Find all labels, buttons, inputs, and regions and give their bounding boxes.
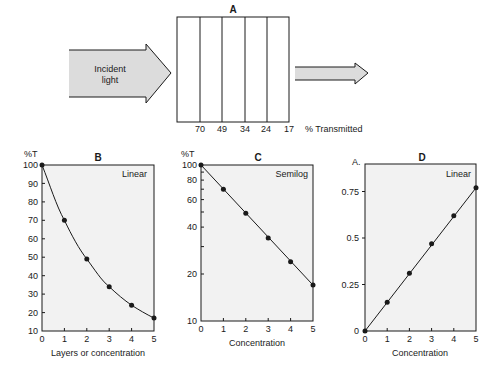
layer-value: 17 — [284, 124, 294, 134]
panel-a-title: A — [229, 4, 236, 15]
y-tick-label: 10 — [28, 326, 38, 336]
y-tick-label: 30 — [28, 289, 38, 299]
x-tick-label: 0 — [198, 324, 203, 334]
x-axis-label-c: Concentration — [229, 338, 285, 348]
scale-annotation-d: Linear — [446, 169, 471, 179]
y-tick-label: 0.25 — [341, 280, 359, 290]
y-tick-label: 50 — [28, 252, 38, 262]
layer-value: 49 — [217, 124, 227, 134]
x-tick-label: 0 — [39, 334, 44, 344]
layer-value: 34 — [240, 124, 250, 134]
y-tick-label: 60 — [28, 234, 38, 244]
y-tick-label: 90 — [28, 179, 38, 189]
y-axis-label-c: %T — [181, 149, 195, 159]
y-tick-label: 40 — [28, 271, 38, 281]
y-axis-label-d: A. — [352, 157, 361, 167]
y-tick-label: 100 — [182, 160, 197, 170]
x-tick-label: 3 — [107, 334, 112, 344]
panel-a-diagram: A Incident light 70 49 34 24 17 % Transm… — [69, 4, 368, 134]
incident-label-line1: Incident — [94, 64, 126, 74]
plot-area-b — [42, 165, 154, 331]
incident-label-line2: light — [102, 75, 119, 85]
x-tick-label: 4 — [451, 334, 456, 344]
chart-title-d: D — [418, 152, 425, 163]
x-tick-label: 5 — [151, 334, 156, 344]
y-tick-label: 10 — [187, 316, 197, 326]
x-tick-label: 1 — [385, 334, 390, 344]
chart-panel-d: D A. Linear 0 0.25 0.5 0.75 0 1 2 3 4 5 … — [341, 152, 478, 358]
y-tick-label: 70 — [28, 215, 38, 225]
scale-annotation-b: Linear — [122, 169, 147, 179]
figure-canvas: A Incident light 70 49 34 24 17 % Transm… — [0, 0, 495, 372]
x-tick-label: 3 — [266, 324, 271, 334]
x-tick-label: 4 — [129, 334, 134, 344]
y-tick-label: 20 — [28, 308, 38, 318]
y-tick-label: 60 — [187, 195, 197, 205]
absorbing-layers-box — [177, 17, 289, 122]
y-tick-label: 20 — [187, 269, 197, 279]
x-tick-label: 4 — [288, 324, 293, 334]
y-tick-label: 80 — [28, 197, 38, 207]
y-axis-label-b: %T — [24, 149, 38, 159]
y-tick-label: 40 — [187, 222, 197, 232]
x-tick-label: 5 — [473, 334, 478, 344]
x-axis-label-d: Concentration — [392, 348, 448, 358]
x-tick-label: 5 — [310, 324, 315, 334]
layer-value: 70 — [195, 124, 205, 134]
plot-area-c — [201, 165, 313, 321]
x-tick-label: 2 — [84, 334, 89, 344]
y-tick-label: 80 — [187, 175, 197, 185]
y-tick-label: 0 — [354, 326, 359, 336]
y-tick-label: 0.5 — [346, 233, 359, 243]
x-tick-label: 0 — [362, 334, 367, 344]
chart-title-c: C — [254, 152, 261, 163]
chart-panel-b: B %T Linear 100 90 80 70 60 50 40 30 20 … — [23, 149, 157, 358]
y-tick-label: 100 — [23, 160, 38, 170]
plot-area-d — [365, 164, 476, 331]
chart-title-b: B — [94, 152, 101, 163]
transmitted-light-arrow — [295, 63, 368, 84]
transmitted-label: % Transmitted — [305, 124, 363, 134]
x-tick-label: 1 — [221, 324, 226, 334]
x-tick-label: 2 — [407, 334, 412, 344]
y-tick-label: 0.75 — [341, 187, 359, 197]
x-tick-label: 1 — [62, 334, 67, 344]
x-axis-label-b: Layers or concentration — [51, 348, 145, 358]
scale-annotation-c: Semilog — [275, 169, 308, 179]
layer-value: 24 — [261, 124, 271, 134]
x-tick-label: 2 — [243, 324, 248, 334]
x-tick-label: 3 — [429, 334, 434, 344]
chart-panel-c: C %T Semilog 100 80 60 40 20 10 0 1 2 — [181, 149, 316, 348]
